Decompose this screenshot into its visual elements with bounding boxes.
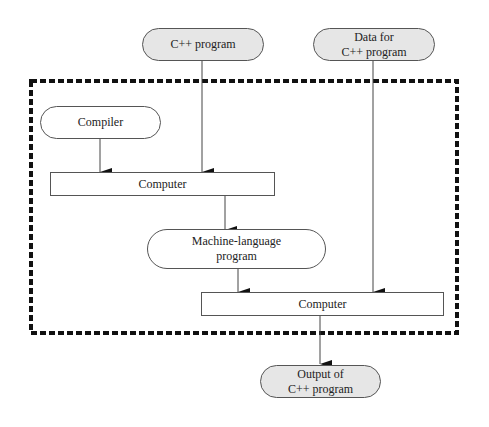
- node-label: Output of C++ program: [288, 367, 353, 397]
- connectors: [0, 0, 489, 427]
- node-label: Data for C++ program: [341, 30, 406, 60]
- node-cpp-program: C++ program: [142, 28, 264, 61]
- node-machine-language-program: Machine-language program: [147, 229, 326, 269]
- node-output-of-cpp-program: Output of C++ program: [260, 365, 381, 398]
- flowchart-canvas: C++ program Data for C++ program Compile…: [0, 0, 489, 427]
- node-data-for-cpp-program: Data for C++ program: [313, 28, 435, 61]
- node-label: Machine-language program: [192, 234, 281, 264]
- node-label: Computer: [139, 177, 187, 192]
- node-computer-2: Computer: [201, 292, 444, 316]
- node-label: Computer: [299, 297, 347, 312]
- node-label: Compiler: [78, 115, 123, 130]
- node-label: C++ program: [170, 37, 235, 52]
- node-compiler: Compiler: [40, 106, 161, 139]
- node-computer-1: Computer: [50, 172, 275, 196]
